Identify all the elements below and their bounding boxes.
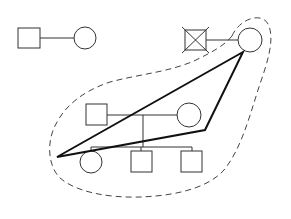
son-node	[131, 151, 152, 172]
female-node	[238, 28, 262, 52]
female-node	[177, 103, 201, 127]
genogram-canvas	[0, 0, 291, 219]
genogram-diagram: genogram	[0, 0, 291, 219]
daughter-node	[80, 151, 102, 173]
children	[80, 151, 202, 173]
son-node	[181, 151, 202, 172]
male-node	[86, 104, 107, 125]
male-node	[18, 28, 40, 48]
female-node	[74, 27, 96, 49]
